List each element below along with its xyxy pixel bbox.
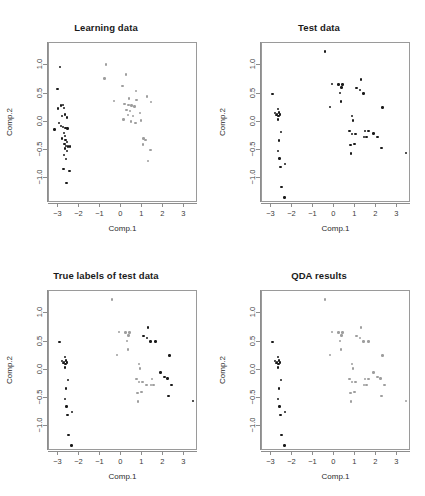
data-point — [66, 150, 68, 152]
data-point — [275, 114, 277, 116]
data-point — [66, 414, 68, 416]
x-tick-label: −2 — [287, 457, 296, 466]
y-tick-label: −0.5 — [35, 140, 44, 158]
data-point — [105, 63, 107, 65]
panel-test-data: Test data Comp.1 Comp.2 −3−2−101231.00.5… — [213, 0, 425, 248]
data-point — [355, 335, 357, 337]
y-tick-label: −1.0 — [248, 168, 257, 186]
x-axis-line — [261, 203, 410, 204]
x-tick-label: 1 — [352, 209, 356, 218]
data-point — [64, 398, 66, 400]
data-point — [116, 354, 118, 356]
x-axis-line — [261, 451, 410, 452]
data-point — [278, 405, 280, 407]
data-point — [142, 143, 144, 145]
data-point — [280, 186, 282, 188]
data-point — [69, 145, 71, 147]
panel-true-labels: True labels of test data Comp.1 Comp.2 −… — [0, 248, 212, 496]
y-tick-label: 1.0 — [35, 55, 44, 73]
data-point — [62, 104, 64, 106]
y-tick — [43, 312, 47, 313]
plot-frame — [48, 42, 197, 202]
data-point — [125, 109, 127, 111]
y-axis-line — [260, 42, 261, 202]
x-tick — [183, 203, 184, 207]
y-tick — [256, 397, 260, 398]
x-tick-label: −1 — [95, 457, 104, 466]
y-axis-line — [47, 42, 48, 202]
panel-qda-results: QDA results Comp.1 Comp.2 −3−2−101231.00… — [213, 248, 425, 496]
data-point — [56, 88, 58, 90]
y-axis-line — [47, 290, 48, 450]
x-tick — [57, 203, 58, 207]
data-point — [372, 132, 374, 134]
data-point — [142, 335, 144, 337]
y-tick-label: 1.0 — [248, 55, 257, 73]
y-tick-label: −0.5 — [248, 140, 257, 158]
data-point — [380, 147, 382, 149]
data-point — [277, 118, 279, 120]
data-point — [275, 362, 277, 364]
data-point — [66, 141, 68, 143]
x-tick-label: 1 — [139, 209, 143, 218]
x-tick-label: −3 — [53, 457, 62, 466]
panel-title: Test data — [213, 22, 425, 33]
data-point — [129, 110, 131, 112]
data-point — [159, 371, 161, 373]
data-point — [64, 363, 66, 365]
x-tick — [99, 203, 100, 207]
data-point — [277, 115, 279, 117]
y-tick — [43, 341, 47, 342]
x-tick — [354, 203, 355, 207]
data-point — [376, 376, 378, 378]
x-tick — [57, 451, 58, 455]
panel-title: True labels of test data — [0, 270, 212, 281]
data-point — [405, 400, 407, 402]
x-tick — [120, 203, 121, 207]
data-point — [65, 387, 67, 389]
x-tick — [375, 203, 376, 207]
y-tick — [256, 93, 260, 94]
data-point — [123, 103, 125, 105]
y-tick — [256, 177, 260, 178]
data-point — [278, 139, 280, 141]
data-point — [58, 341, 60, 343]
data-point — [140, 391, 142, 393]
data-point — [354, 133, 356, 135]
data-point — [359, 89, 361, 91]
data-point — [70, 444, 72, 446]
x-tick-label: −1 — [308, 209, 317, 218]
x-tick-label: 0 — [331, 457, 335, 466]
data-point — [59, 66, 61, 68]
data-point — [277, 108, 279, 110]
data-point — [379, 377, 381, 379]
x-tick — [183, 451, 184, 455]
y-tick-label: 1.0 — [35, 303, 44, 321]
y-tick — [256, 369, 260, 370]
data-point — [367, 130, 369, 132]
data-point — [137, 400, 139, 402]
y-axis-title: Comp.2 — [4, 42, 16, 202]
y-tick — [43, 369, 47, 370]
y-tick-label: −1.0 — [35, 416, 44, 434]
y-axis-title-text: Comp.2 — [218, 108, 228, 136]
data-point — [125, 73, 127, 75]
y-tick — [43, 425, 47, 426]
data-point — [348, 130, 350, 132]
x-tick — [99, 451, 100, 455]
panel-learning-data: Learning data Comp.1 Comp.2 −3−2−101231.… — [0, 0, 212, 248]
data-point — [271, 93, 273, 95]
panel-title: Learning data — [0, 22, 212, 33]
data-point — [329, 106, 331, 108]
x-tick-label: −3 — [53, 209, 62, 218]
data-point — [149, 149, 151, 151]
x-tick — [396, 203, 397, 207]
data-point — [127, 348, 129, 350]
data-point — [351, 133, 353, 135]
x-tick-label: −3 — [266, 457, 275, 466]
y-tick — [43, 149, 47, 150]
figure-canvas: Learning data Comp.1 Comp.2 −3−2−101231.… — [0, 0, 425, 496]
data-point — [376, 136, 378, 138]
data-point — [170, 384, 172, 386]
x-tick-label: 3 — [181, 209, 185, 218]
